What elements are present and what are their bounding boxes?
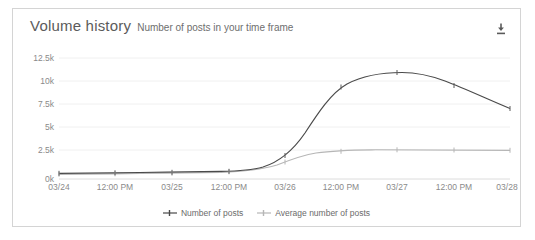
x-tick-label: 12:00 PM: [323, 182, 359, 192]
x-tick-label: 03/25: [161, 182, 183, 192]
y-tick-label: 7.5k: [38, 99, 55, 109]
legend-item-average-number-of-posts[interactable]: Average number of posts: [257, 208, 370, 218]
legend-marker-icon: [163, 209, 177, 217]
legend-marker-icon: [257, 209, 271, 217]
x-tick-label: 03/26: [274, 182, 296, 192]
gridlines: [59, 58, 510, 150]
y-tick-label: 12.5k: [33, 53, 55, 63]
x-tick-label: 12:00 PM: [97, 182, 133, 192]
y-tick-label: 10k: [40, 76, 54, 86]
x-axis-labels: 03/24 12:00 PM 03/25 12:00 PM 03/26 12:0…: [48, 182, 518, 192]
y-tick-label: 5k: [45, 122, 55, 132]
x-tick-label: 03/24: [48, 182, 70, 192]
chart-legend: Number of posts Average number of posts: [13, 208, 520, 218]
chart-plot-area: 12.5k 10k 7.5k 5k 2.5k 0k: [13, 9, 522, 228]
volume-history-card: Volume history Number of posts in your t…: [12, 8, 521, 227]
x-tick-label: 03/28: [496, 182, 518, 192]
legend-label: Average number of posts: [275, 208, 370, 218]
x-tick-label: 12:00 PM: [436, 182, 472, 192]
x-tick-label: 03/27: [386, 182, 408, 192]
legend-item-number-of-posts[interactable]: Number of posts: [163, 208, 243, 218]
series-line-number-of-posts: [59, 73, 510, 174]
legend-label: Number of posts: [181, 208, 243, 218]
y-tick-label: 2.5k: [38, 145, 55, 155]
x-tick-label: 12:00 PM: [211, 182, 247, 192]
y-axis-labels: 12.5k 10k 7.5k 5k 2.5k 0k: [33, 53, 55, 184]
screenshot-root: Volume history Number of posts in your t…: [0, 0, 535, 240]
